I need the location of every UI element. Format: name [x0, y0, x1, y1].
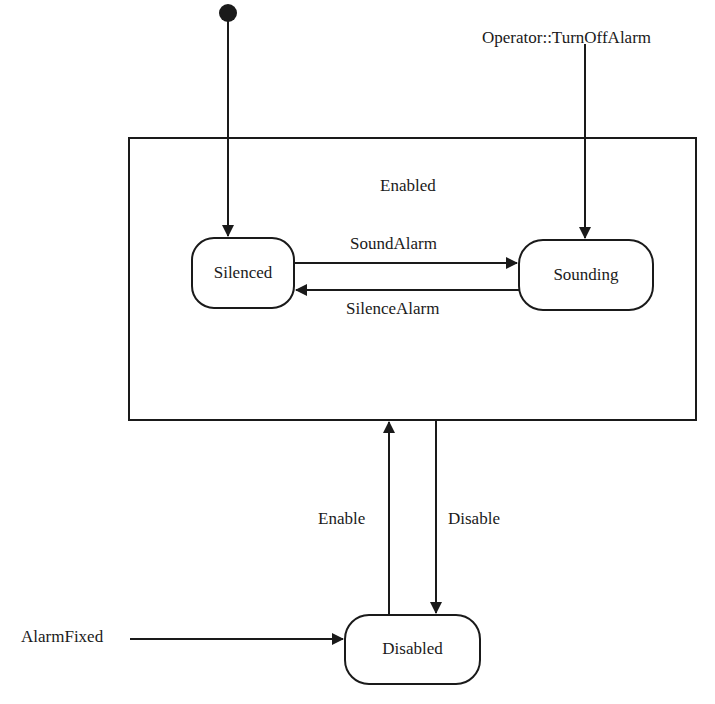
transition-label-enable: Enable [318, 509, 365, 529]
transition-label-alarmfixed: AlarmFixed [21, 627, 103, 647]
state-label-silenced: Silenced [192, 263, 294, 283]
state-label-sounding: Sounding [519, 265, 653, 285]
transition-label-silencealarm: SilenceAlarm [346, 299, 439, 319]
initial-state-dot [219, 4, 237, 22]
transition-label-disable: Disable [448, 509, 500, 529]
state-diagram-canvas [0, 0, 715, 704]
composite-state-label-enabled: Enabled [380, 176, 436, 196]
transition-label-turnoffalarm: Operator::TurnOffAlarm [482, 28, 651, 48]
transition-label-soundalarm: SoundAlarm [350, 234, 437, 254]
state-label-disabled: Disabled [345, 639, 480, 659]
